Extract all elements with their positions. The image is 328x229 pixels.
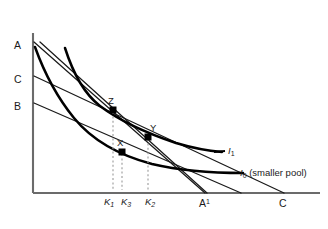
y-axis-label-b: B [14,101,21,112]
x-axis-label-a-prime-text: A [199,197,206,209]
curve-label-i0-suffix: (smaller pool) [247,167,307,178]
y-axis-label-c: C [14,74,22,85]
indifference-curve-diagram: A C B A1 C K1 K3 K2 Z Y X I1 I0 (smaller… [0,0,328,229]
tick-label-k2: K2 [145,197,155,207]
curve-label-i1-sub: 1 [231,150,235,157]
tick-label-k3: K3 [121,197,131,207]
point-label-x: X [117,138,123,148]
tick-label-k1-sub: 1 [110,201,114,208]
x-axis-label-a-prime-sup: 1 [206,198,210,205]
point-marker-z [110,107,117,114]
budget-line-b [34,103,241,193]
curve-label-i0-sub: 0 [243,172,247,179]
x-axis-label-a-prime: A1 [199,198,210,209]
x-axis-label-c: C [279,198,287,209]
point-marker-y [145,134,152,141]
point-marker-x [119,149,126,156]
tick-label-k2-sub: 2 [151,201,155,208]
point-label-y: Y [150,123,156,133]
tick-label-k1: K1 [104,197,114,207]
tick-label-k3-sub: 3 [127,201,131,208]
leader-i1 [214,151,225,152]
diagram-canvas [0,0,328,229]
curve-label-i0: I0 (smaller pool) [240,168,307,178]
curve-label-i1: I1 [228,146,235,156]
y-axis-label-a: A [14,40,21,51]
point-label-z: Z [108,96,114,106]
